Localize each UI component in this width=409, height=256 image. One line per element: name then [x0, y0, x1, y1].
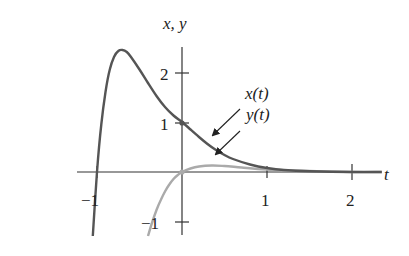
arrow-y-annotation [216, 131, 240, 154]
annotation-x-t: x(t) [244, 84, 269, 103]
tick-label-y-2: 2 [160, 65, 169, 84]
y-axis-label: x, y [162, 14, 187, 33]
x-axis-label: t [384, 165, 390, 184]
tick-label-t-1: 1 [261, 191, 270, 210]
chart-canvas: x, y t −1 1 2 2 1 −1 x(t) y(t) [0, 0, 409, 256]
tick-label-y-1: 1 [160, 115, 169, 134]
y-at-zero-dot [179, 169, 184, 174]
tick-label-t-minus1: −1 [81, 191, 99, 210]
tick-label-y-minus1: −1 [141, 214, 159, 233]
tick-label-t-2: 2 [346, 191, 355, 210]
annotation-y-t: y(t) [244, 105, 270, 124]
x-at-zero-dot [179, 120, 184, 125]
arrow-x-annotation [213, 109, 240, 135]
series-x-curve [93, 50, 382, 236]
